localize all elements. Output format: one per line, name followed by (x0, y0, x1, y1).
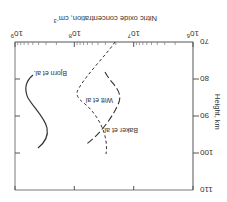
x-axis-title: Nitric oxide concentration, cm-3 (54, 14, 157, 24)
x-tick-1e9: 109 (10, 29, 23, 39)
x-tick-labels: 106 107 108 109 (10, 29, 199, 39)
label-baker: Baker et al. (103, 127, 138, 134)
x-tick-1e7: 107 (127, 29, 140, 39)
x-tick-1e6: 106 (186, 29, 199, 39)
chart: 106 107 108 109 70 80 90 100 110 Nitric … (0, 0, 227, 202)
label-bjorn: Bjorn et al. (33, 69, 67, 77)
label-witt: Witt et al (85, 97, 113, 104)
y-tick-80: 80 (199, 74, 208, 83)
x-tick-1e8: 108 (68, 29, 81, 39)
y-tick-labels: 70 80 90 100 110 (199, 37, 213, 194)
y-axis-title: Height, km (213, 94, 222, 130)
series-bjorn-line (26, 75, 48, 148)
y-tick-90: 90 (199, 111, 208, 120)
chart-svg: 106 107 108 109 70 80 90 100 110 Nitric … (0, 0, 227, 202)
y-tick-110: 110 (199, 185, 212, 194)
y-tick-70: 70 (199, 37, 208, 46)
y-tick-100: 100 (199, 148, 213, 157)
y-ticks (15, 79, 199, 153)
